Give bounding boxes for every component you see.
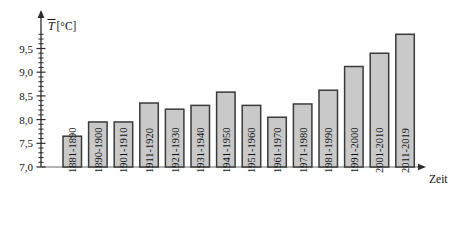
y-axis-title: T[°C] (48, 19, 77, 33)
y-axis-title-unit: [°C] (57, 20, 77, 32)
y-axis-tick-label: 8,0 (19, 114, 33, 126)
chart-page: 7,07,58,08,59,09,5T[°C]1881-18901890-190… (0, 0, 457, 243)
y-axis-tick-label: 9,0 (19, 66, 33, 78)
x-axis-tick-label: 1971-1980 (298, 128, 309, 174)
y-axis-tick-label: 7,5 (19, 137, 33, 149)
x-axis-tick-label: 2011-2019 (400, 128, 411, 173)
x-axis-tick-label: 1931-1940 (195, 128, 206, 174)
x-axis-title: Zeit (429, 173, 448, 185)
x-axis-tick-label: 1921-1930 (170, 128, 181, 174)
x-axis-tick-label: 1961-1970 (272, 128, 283, 174)
x-axis-tick-label: 1981-1990 (323, 128, 334, 174)
bar-chart: 7,07,58,08,59,09,5T[°C]1881-18901890-190… (0, 0, 457, 243)
x-axis-tick-label: 2001-2010 (374, 128, 385, 174)
x-axis-arrow-icon (418, 164, 426, 170)
y-axis-arrow-icon (38, 10, 45, 18)
x-axis-tick-label: 1890-1900 (93, 127, 104, 173)
y-axis-tick-label: 9,5 (19, 43, 33, 55)
x-axis-tick-label: 1901-1910 (118, 128, 129, 174)
x-axis-tick-label: 1951-1960 (246, 127, 257, 173)
x-axis-tick-label: 1911-1920 (144, 128, 155, 173)
x-axis-tick-label: 1881-1890 (67, 128, 78, 174)
y-axis-tick-label: 8,5 (19, 90, 33, 102)
y-axis-tick-label: 7,0 (19, 161, 33, 173)
x-axis-tick-label: 1941-1950 (221, 128, 232, 174)
y-axis-title-symbol: T (48, 19, 56, 33)
x-axis-tick-label: 1991-2000 (349, 128, 360, 174)
